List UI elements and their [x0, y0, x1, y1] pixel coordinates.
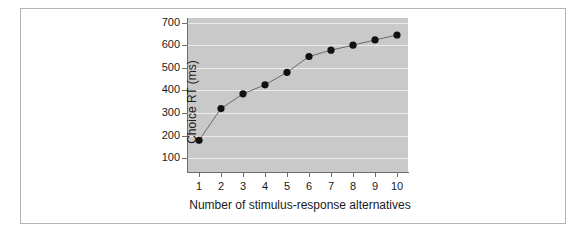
x-tick-label: 9 [363, 180, 387, 192]
x-tick-label: 4 [253, 180, 277, 192]
x-tick-mark [331, 173, 332, 177]
choice-rt-line-chart: 100200300400500600700 12345678910 Choice… [0, 0, 582, 235]
x-tick-label: 10 [385, 180, 409, 192]
x-tick-mark [397, 173, 398, 177]
data-point-marker [239, 90, 246, 97]
data-point-marker [283, 69, 290, 76]
x-tick-label: 7 [319, 180, 343, 192]
x-tick-mark [199, 173, 200, 177]
data-series-choice-rt [188, 18, 408, 172]
x-tick-mark [375, 173, 376, 177]
x-tick-label: 3 [231, 180, 255, 192]
x-tick-label: 1 [187, 180, 211, 192]
data-point-marker [371, 36, 378, 43]
data-point-marker [261, 81, 268, 88]
x-axis-title: Number of stimulus-response alternatives [140, 198, 460, 212]
y-tick-mark [182, 23, 187, 24]
y-axis-title: Choice RT (ms) [185, 42, 199, 162]
series-line [199, 35, 397, 140]
x-tick-mark [309, 173, 310, 177]
y-tick-label-wrap: 700 [144, 17, 180, 28]
plot-area [188, 18, 408, 172]
x-tick-mark [221, 173, 222, 177]
data-point-marker [349, 42, 356, 49]
y-tick-label: 700 [148, 17, 180, 28]
y-axis-title-holder: Choice RT (ms) [141, 35, 155, 155]
x-tick-mark [287, 173, 288, 177]
x-tick-label: 8 [341, 180, 365, 192]
x-tick-label: 2 [209, 180, 233, 192]
data-point-marker [327, 47, 334, 54]
x-tick-mark [265, 173, 266, 177]
data-point-marker [217, 105, 224, 112]
data-point-marker [305, 53, 312, 60]
x-tick-label: 5 [275, 180, 299, 192]
x-tick-mark [243, 173, 244, 177]
x-tick-mark [353, 173, 354, 177]
x-tick-label: 6 [297, 180, 321, 192]
data-point-marker [393, 31, 400, 38]
